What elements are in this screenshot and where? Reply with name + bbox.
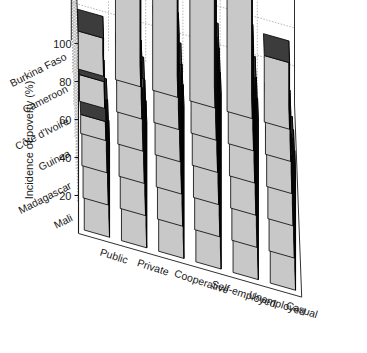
bar-face-side [183, 85, 184, 259]
bar-face-side [181, 43, 182, 194]
bar-face-side [214, 0, 215, 108]
value-axis-tick-label: 100 [53, 38, 71, 50]
bar [152, 0, 178, 97]
bar [115, 0, 141, 87]
bar-face-side [216, 0, 217, 140]
bar-face-side [256, 77, 257, 247]
category-axis-label: Private [136, 256, 171, 278]
chart-canvas: 20406080100Incidence of poverty (%)Burki… [0, 0, 367, 353]
bar-face-side [177, 0, 178, 97]
bar [226, 0, 252, 119]
bar-face-side [252, 0, 253, 119]
bar-face-side [220, 72, 221, 269]
row-axis-label: Guinea [36, 147, 72, 173]
bar-face-side [255, 57, 256, 216]
bar-face-front [115, 0, 140, 87]
row-axis-label: Côte d'Ivoire [13, 115, 71, 152]
bar-face-front [227, 0, 252, 119]
bar [189, 0, 215, 108]
bar-face-side [258, 98, 259, 279]
bar-face-side [140, 0, 141, 87]
bar-face-front [190, 0, 215, 108]
bar-face-front [78, 31, 103, 76]
chart-3d-bar-poverty: 20406080100Incidence of poverty (%)Burki… [0, 0, 367, 353]
bar-face-side [219, 48, 220, 237]
bar [263, 34, 289, 130]
bar-face-front [153, 0, 178, 97]
bar-face-front [264, 56, 289, 130]
row-axis-label: Mali [52, 211, 75, 230]
bar-face-side [218, 23, 219, 204]
bar-face-side [182, 64, 183, 226]
category-axis-label: Public [99, 246, 130, 266]
bar [77, 9, 103, 76]
